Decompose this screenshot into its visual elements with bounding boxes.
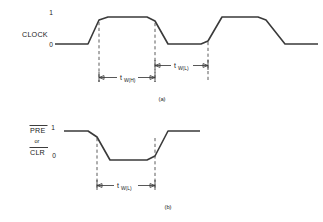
tw-high-label-sub: W(H) xyxy=(124,78,136,83)
preclr-label-clr: CLR xyxy=(30,148,45,157)
timing-diagram-svg: CLOCK 1 0 t W(H) t W(L) (a) xyxy=(0,0,323,222)
tw-low-label-sub-b: W(L) xyxy=(121,186,132,191)
tw-low-label-sub-a: W(L) xyxy=(178,66,189,71)
preclr-level-high-label: 1 xyxy=(51,124,55,131)
preclr-waveform xyxy=(64,131,200,160)
panel-b-group: PRE or CLR 1 0 t W(L) (b) xyxy=(30,124,201,210)
panel-a-group: CLOCK 1 0 t W(H) t W(L) (a) xyxy=(22,9,318,102)
tw-low-label-base-a: t xyxy=(174,62,176,69)
panel-a-caption: (a) xyxy=(158,96,165,102)
timing-diagram-figure: CLOCK 1 0 t W(H) t W(L) (a) xyxy=(0,0,323,222)
preclr-label-pre: PRE xyxy=(30,126,45,135)
panel-b-caption: (b) xyxy=(164,204,171,210)
preclr-label-or: or xyxy=(35,138,40,144)
clock-level-high-label: 1 xyxy=(49,9,53,16)
tw-high-label-base: t xyxy=(120,74,122,81)
clock-waveform xyxy=(55,17,318,44)
clock-signal-label: CLOCK xyxy=(22,30,48,39)
preclr-level-low-label: 0 xyxy=(52,152,56,159)
clock-level-low-label: 0 xyxy=(49,41,53,48)
tw-low-label-base-b: t xyxy=(117,182,119,189)
